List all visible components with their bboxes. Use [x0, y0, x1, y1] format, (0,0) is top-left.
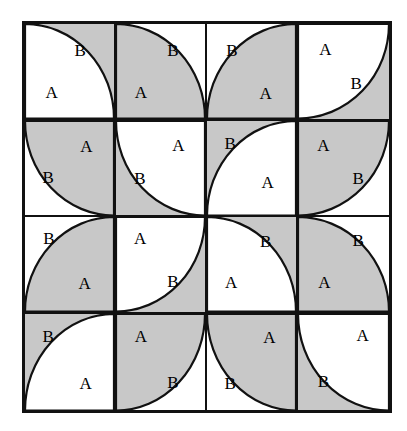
tile-cell-r3c4: AB — [298, 217, 389, 314]
quarter-circle-icon — [298, 217, 389, 312]
tile-cell-r1c3: AB — [207, 24, 298, 121]
quarter-circle-icon — [207, 314, 296, 411]
quarter-circle-icon — [298, 24, 389, 119]
tiling-figure: ABABABABABABABABABABABABABABABAB — [0, 0, 407, 431]
quarter-circle-icon — [25, 314, 114, 411]
tile-cell-r2c3: AB — [207, 121, 298, 218]
quarter-circle-icon — [207, 121, 296, 216]
quarter-circle-icon — [116, 217, 205, 312]
tile-cell-r1c2: AB — [116, 24, 207, 121]
tiling-grid: ABABABABABABABABABABABABABABABAB — [22, 21, 392, 413]
tile-cell-r2c2: AB — [116, 121, 207, 218]
tile-cell-r1c4: AB — [298, 24, 389, 121]
quarter-circle-icon — [116, 314, 205, 411]
tile-cell-r2c1: AB — [25, 121, 116, 218]
tile-cell-r4c3: AB — [207, 314, 298, 411]
quarter-circle-icon — [116, 121, 205, 216]
quarter-circle-icon — [25, 217, 114, 312]
tile-cell-r4c4: AB — [298, 314, 389, 411]
tile-cell-r4c1: AB — [25, 314, 116, 411]
tile-cell-r3c2: AB — [116, 217, 207, 314]
quarter-circle-icon — [298, 314, 389, 411]
tile-cell-r2c4: AB — [298, 121, 389, 218]
tile-cell-r4c2: AB — [116, 314, 207, 411]
quarter-circle-icon — [207, 24, 296, 119]
tile-cell-r3c1: AB — [25, 217, 116, 314]
quarter-circle-icon — [25, 24, 114, 119]
tile-cell-r3c3: AB — [207, 217, 298, 314]
quarter-circle-icon — [116, 24, 205, 119]
quarter-circle-icon — [298, 121, 389, 216]
quarter-circle-icon — [25, 121, 114, 216]
quarter-circle-icon — [207, 217, 296, 312]
tile-cell-r1c1: AB — [25, 24, 116, 121]
